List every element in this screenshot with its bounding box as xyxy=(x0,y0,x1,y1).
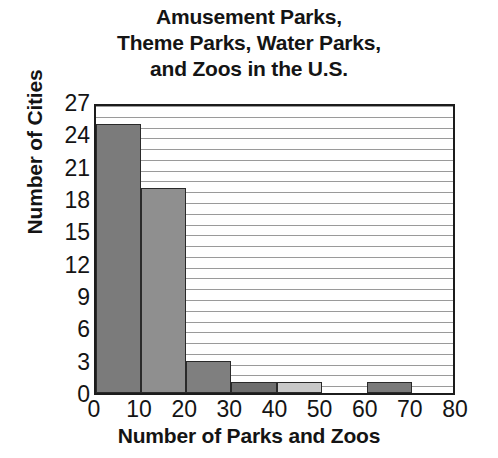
y-tick-label: 6 xyxy=(46,318,90,341)
bar xyxy=(141,188,186,393)
x-tick-label: 70 xyxy=(387,396,433,422)
x-axis-title: Number of Parks and Zoos xyxy=(0,424,498,448)
gridline xyxy=(96,149,453,150)
bar xyxy=(96,124,141,393)
y-tick-label: 24 xyxy=(46,124,90,147)
y-tick-label: 3 xyxy=(46,351,90,374)
y-tick-label: 12 xyxy=(46,254,90,277)
bar xyxy=(231,382,276,393)
y-tick-label: 9 xyxy=(46,286,90,309)
bar xyxy=(186,361,231,393)
gridline xyxy=(96,138,453,139)
x-tick-label: 20 xyxy=(161,396,207,422)
y-tick-label: 27 xyxy=(46,92,90,115)
gridline xyxy=(96,128,453,129)
x-tick-label: 30 xyxy=(206,396,252,422)
x-tick-label: 50 xyxy=(297,396,343,422)
gridline xyxy=(96,117,453,118)
gridline xyxy=(96,106,453,107)
x-tick-label: 10 xyxy=(116,396,162,422)
y-axis-tick-labels: 0369121518212427 xyxy=(40,0,90,458)
x-tick-label: 0 xyxy=(71,396,117,422)
plot-area xyxy=(94,104,455,395)
gridline xyxy=(96,171,453,172)
y-tick-label: 15 xyxy=(46,221,90,244)
y-tick-label: 21 xyxy=(46,157,90,180)
bar-chart-figure: Amusement Parks, Theme Parks, Water Park… xyxy=(0,0,498,458)
x-tick-label: 60 xyxy=(342,396,388,422)
gridline xyxy=(96,160,453,161)
y-tick-label: 18 xyxy=(46,189,90,212)
bar xyxy=(277,382,322,393)
bar xyxy=(367,382,412,393)
x-tick-label: 80 xyxy=(432,396,478,422)
gridline xyxy=(96,181,453,182)
x-axis-tick-labels: 01020304050607080 xyxy=(94,396,455,426)
x-tick-label: 40 xyxy=(252,396,298,422)
